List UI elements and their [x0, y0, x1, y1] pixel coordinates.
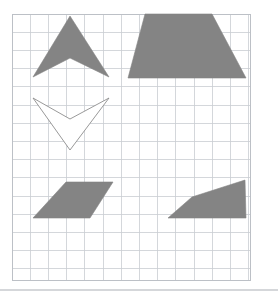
- trapezoid-filled: [128, 14, 246, 78]
- parallelogram-filled: [33, 182, 113, 218]
- figure-page: [0, 0, 278, 295]
- chevron-down-outline: [33, 98, 109, 150]
- chevron-up-filled: [33, 16, 109, 77]
- right-trapezoid-filled: [168, 180, 246, 218]
- geometry-figure-canvas: [0, 0, 278, 295]
